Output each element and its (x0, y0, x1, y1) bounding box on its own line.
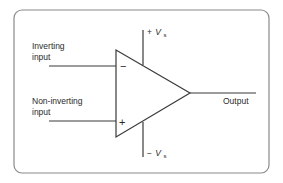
inverting-input-label-line1: Inverting (32, 41, 65, 51)
negative-supply-label: − V s (147, 148, 166, 159)
diagram-frame (14, 10, 269, 173)
minus-terminal-symbol: − (120, 60, 126, 72)
non-inverting-input-label-line2: input (32, 107, 51, 117)
output-label: Output (223, 96, 249, 106)
inverting-input-label-line2: input (32, 52, 51, 62)
op-amp-diagram: − + Inverting input Non-inverting input … (0, 0, 283, 183)
non-inverting-input-label-line1: Non-inverting (32, 96, 83, 106)
positive-supply-label: + V s (147, 27, 166, 38)
plus-terminal-symbol: + (119, 116, 125, 128)
op-amp-triangle (116, 50, 190, 137)
